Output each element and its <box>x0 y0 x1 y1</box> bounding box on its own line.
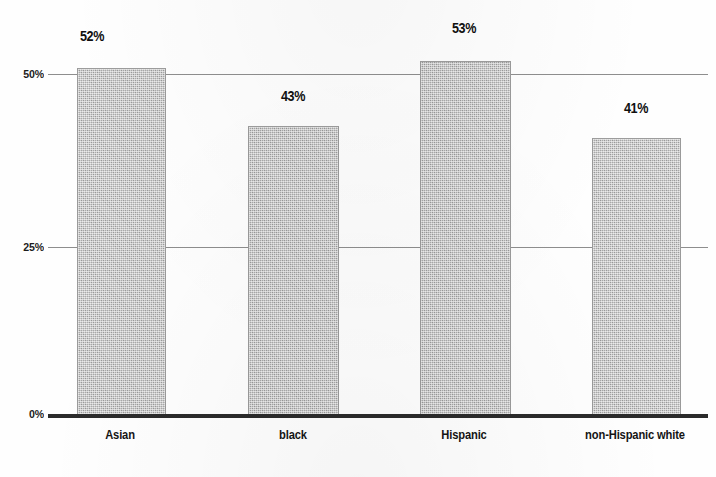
bar-value-label-non-hispanic-white: 41% <box>596 100 677 116</box>
bar-asian <box>77 68 166 414</box>
bar-value-label-black: 43% <box>253 88 334 104</box>
bar-hispanic <box>420 61 511 414</box>
x-category-label-hispanic: Hispanic <box>394 428 534 442</box>
bar-value-label-hispanic: 53% <box>424 20 505 36</box>
bar-chart-figure: 50% 25% 0% 52% 43% 53% 41% Asian black H… <box>0 0 716 477</box>
bar-value-label-asian: 52% <box>52 28 133 44</box>
x-category-label-black: black <box>223 428 363 442</box>
bar-black <box>248 126 339 414</box>
y-tick-label-25: 25% <box>4 241 44 253</box>
x-category-label-non-hispanic-white: non-Hispanic white <box>565 428 705 442</box>
x-category-label-asian: Asian <box>50 428 190 442</box>
x-axis-baseline <box>48 414 708 418</box>
y-axis: 50% 25% 0% <box>0 20 44 418</box>
cropped-title-text <box>0 0 716 3</box>
y-tick-label-50: 50% <box>4 68 44 80</box>
plot-area <box>48 20 708 418</box>
y-tick-label-0: 0% <box>4 408 44 420</box>
bar-non-hispanic-white <box>592 138 681 414</box>
